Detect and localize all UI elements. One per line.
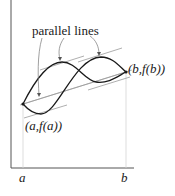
arrow-pointer-2 [59, 38, 64, 59]
tangent-line-upper-left [40, 56, 84, 70]
point-a-label: (a,f(a)) [25, 118, 62, 133]
annotation-label: parallel lines [32, 23, 99, 38]
arrowhead-1 [37, 93, 41, 97]
arrow-pointer-3 [90, 36, 99, 54]
tangent-line-lower-left [24, 105, 67, 118]
mean-value-theorem-diagram: parallel lines (a,f(a)) (b,f(b)) a b [0, 0, 175, 196]
arrow-pointer-1 [38, 38, 42, 95]
x-label-a: a [19, 170, 26, 185]
x-label-b: b [121, 170, 128, 185]
arrowhead-2 [58, 57, 62, 61]
point-a [21, 102, 24, 105]
tangent-line-lower-right [88, 77, 130, 90]
tangent-line-upper-right [78, 48, 122, 62]
secant-extension [20, 70, 132, 105]
point-b-label: (b,f(b)) [128, 61, 165, 76]
